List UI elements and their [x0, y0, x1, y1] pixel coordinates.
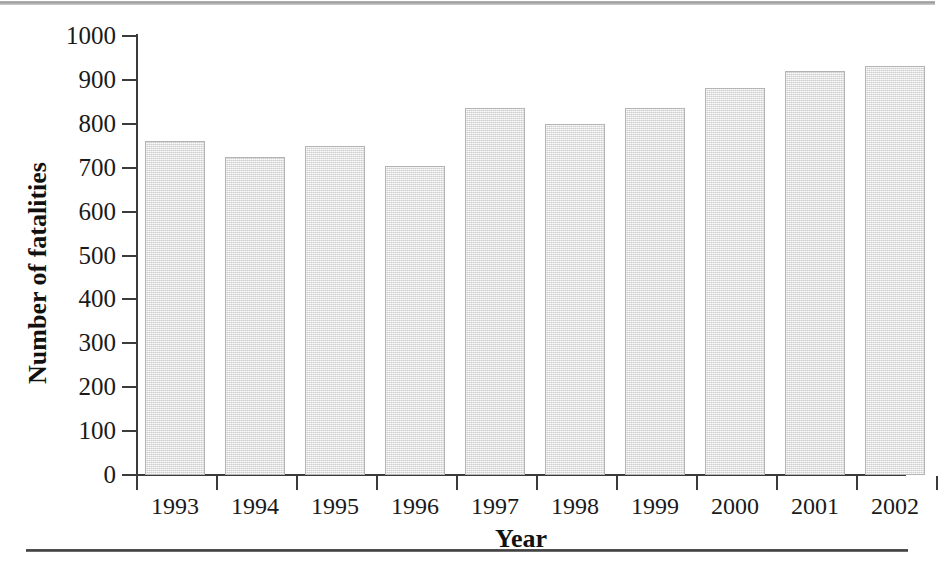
x-axis-tick-label: 1998 [530, 494, 620, 518]
x-axis-tick [376, 476, 378, 490]
y-axis-tick [122, 211, 136, 213]
bar-2000 [705, 88, 765, 475]
y-axis-tick [122, 79, 136, 81]
y-axis-tick-label: 300 [44, 330, 116, 355]
bar-2001 [785, 71, 845, 475]
y-axis-tick [122, 342, 136, 344]
x-axis-tick-label: 1999 [610, 494, 700, 518]
x-axis-tick-label: 2000 [690, 494, 780, 518]
x-axis-tick-label: 1993 [130, 494, 220, 518]
y-axis-tick [122, 167, 136, 169]
y-axis-tick [122, 474, 136, 476]
y-axis-tick-label: 500 [44, 243, 116, 268]
bar-1994 [225, 157, 285, 475]
y-axis-tick-label: 700 [44, 155, 116, 180]
bar-1993 [145, 141, 205, 475]
x-axis-tick-label: 1994 [210, 494, 300, 518]
x-axis-tick-label: 2001 [770, 494, 860, 518]
bar-1995 [305, 146, 365, 475]
y-axis-tick-label: 400 [44, 286, 116, 311]
x-axis-tick-label: 2002 [850, 494, 940, 518]
y-axis-tick-label: 1000 [44, 23, 116, 48]
bar-1999 [625, 108, 685, 475]
y-axis-tick [122, 298, 136, 300]
x-axis-tick [936, 476, 938, 490]
bar-1998 [545, 124, 605, 475]
y-axis-title: Number of fatalities [23, 123, 53, 423]
x-axis-tick [456, 476, 458, 490]
bar-1996 [385, 166, 445, 475]
x-axis-tick-label: 1997 [450, 494, 540, 518]
x-axis-tick [296, 476, 298, 490]
x-axis-tick-label: 1996 [370, 494, 460, 518]
y-axis-tick-label: 200 [44, 374, 116, 399]
x-axis-tick [136, 476, 138, 490]
y-axis-tick-label: 900 [44, 67, 116, 92]
y-axis-tick-label: 600 [44, 199, 116, 224]
x-axis-tick [856, 476, 858, 490]
y-axis-tick-label: 0 [44, 462, 116, 487]
y-axis-tick [122, 255, 136, 257]
x-axis-tick [696, 476, 698, 490]
y-axis-tick-label: 100 [44, 418, 116, 443]
y-axis-tick [122, 430, 136, 432]
bar-1997 [465, 108, 525, 475]
y-axis-line [136, 34, 138, 477]
x-axis-tick [616, 476, 618, 490]
bar-2002 [865, 66, 925, 475]
y-axis-tick-label: 800 [44, 111, 116, 136]
page-rule-bottom [26, 549, 908, 552]
y-axis-tick [122, 123, 136, 125]
x-axis-tick [536, 476, 538, 490]
y-axis-tick [122, 35, 136, 37]
x-axis-tick-label: 1995 [290, 494, 380, 518]
y-axis-tick [122, 386, 136, 388]
x-axis-tick [216, 476, 218, 490]
x-axis-tick [776, 476, 778, 490]
